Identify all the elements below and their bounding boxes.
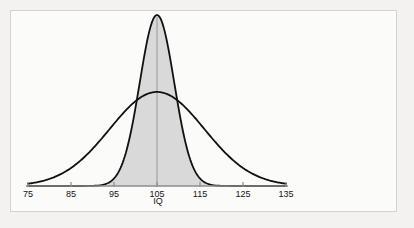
curves-group [28,15,286,186]
figure-root: 758595105115125135 IQ [0,0,414,228]
x-axis-tick-label: 125 [235,189,250,199]
iq-distribution-chart: 758595105115125135 IQ [0,0,414,228]
x-axis-tick-label: 75 [23,189,33,199]
x-axis-tick-label: 85 [66,189,76,199]
x-axis-tick-label: 115 [193,189,207,199]
x-axis-tick-label: 135 [278,189,293,199]
x-axis-title: IQ [153,196,163,206]
x-axis-tick-label: 95 [109,189,119,199]
